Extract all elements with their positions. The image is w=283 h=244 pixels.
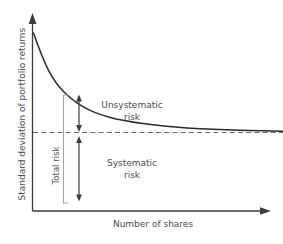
- x-axis-arrowhead: [260, 207, 271, 215]
- systematic-risk-label-line1: Systematic: [107, 158, 157, 168]
- systematic-risk-label: Systematic risk: [89, 158, 175, 181]
- systematic-risk-arrow: [76, 136, 82, 202]
- risk-diversification-chart: Standard deviation of portfolio returns …: [0, 0, 283, 244]
- total-risk-label: Total risk: [51, 136, 62, 196]
- unsystematic-risk-arrow: [76, 95, 82, 133]
- unsystematic-risk-label-line2: risk: [124, 112, 140, 122]
- total-risk-bracket: [64, 95, 69, 203]
- y-axis-label: Standard deviation of portfolio returns: [17, 31, 28, 201]
- unsystematic-risk-label-line1: Unsystematic: [101, 100, 162, 110]
- y-axis-arrowhead: [29, 13, 37, 24]
- x-axis-label: Number of shares: [83, 219, 223, 230]
- unsystematic-risk-label: Unsystematic risk: [89, 100, 175, 123]
- systematic-risk-label-line2: risk: [124, 170, 140, 180]
